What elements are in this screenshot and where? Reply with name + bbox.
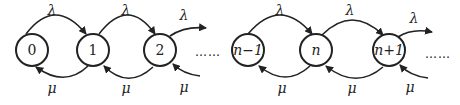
lambda-label: λ <box>409 10 419 26</box>
node-label-n-minus-1: n−1 <box>233 42 263 58</box>
mu-label: μ <box>47 80 56 96</box>
node-label-1: 1 <box>89 42 98 58</box>
arrow-1-to-0 <box>36 66 88 77</box>
lambda-label: λ <box>179 7 189 23</box>
arrow-n-to-n-1 <box>259 66 310 77</box>
arrow-n1-to-n <box>326 66 383 78</box>
lambda-label: λ <box>121 2 131 18</box>
node-label-2: 2 <box>156 42 165 58</box>
node-label-0: 0 <box>28 42 37 58</box>
arrow-in-to-n1 <box>400 65 428 78</box>
node-label-n-plus-1: n+1 <box>374 42 404 58</box>
mu-label: μ <box>405 79 414 95</box>
arrow-n-to-n1 <box>322 20 383 35</box>
lambda-label: λ <box>47 2 57 18</box>
arrow-in-to-2 <box>173 64 200 76</box>
birth-death-diagram: 0 1 2 n−1 n n+1 λ λ λ λ λ λ μ μ μ μ μ μ … <box>0 0 460 105</box>
arrow-2-out <box>170 28 206 36</box>
arrow-n1-out <box>398 31 432 37</box>
arrow-2-to-1 <box>104 66 153 78</box>
mu-label: μ <box>277 80 286 96</box>
mu-label: μ <box>179 79 188 95</box>
ellipsis-end: …… <box>425 47 451 61</box>
mu-label: μ <box>347 80 356 96</box>
lambda-label: λ <box>345 2 355 18</box>
node-label-n: n <box>311 42 320 58</box>
mu-label: μ <box>121 80 130 96</box>
lambda-label: λ <box>275 2 285 18</box>
ellipsis: …… <box>195 45 221 59</box>
